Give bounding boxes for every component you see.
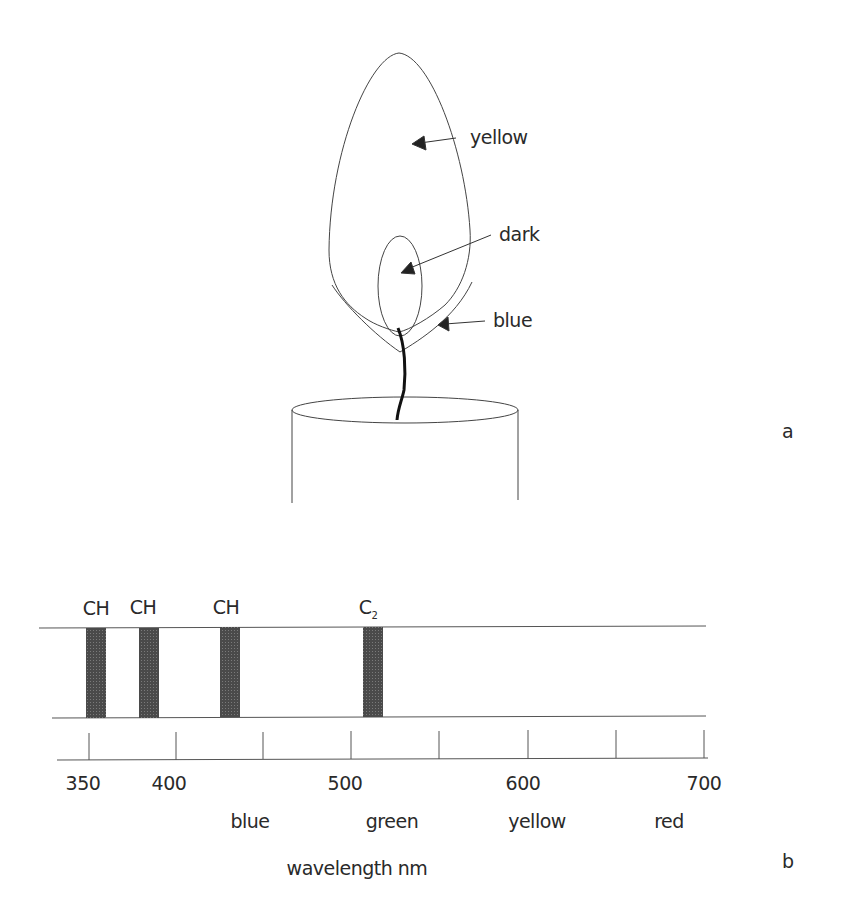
flame-label-yellow: yellow [470, 126, 528, 148]
label-arrows [401, 136, 491, 331]
band-label-ch-3: CH [213, 596, 240, 618]
wick [397, 328, 405, 420]
yellow-arrow-head [412, 136, 426, 150]
wavelength-axis [57, 730, 708, 760]
axis-title: wavelength nm [287, 857, 428, 879]
color-label-blue: blue [230, 810, 269, 832]
band-label-c2-species: C [359, 596, 372, 618]
axis-baseline [57, 758, 708, 760]
candle-illustration [292, 53, 518, 503]
blue-arrow-line [445, 321, 485, 324]
color-label-green: green [366, 810, 418, 832]
emission-bands [86, 627, 383, 718]
band-label-ch-1: CH [83, 597, 110, 619]
band-label-c2: C2 [359, 596, 378, 621]
color-label-yellow: yellow [508, 810, 566, 832]
color-label-red: red [654, 810, 684, 832]
flame-label-blue: blue [493, 309, 532, 331]
tick-label-500: 500 [328, 772, 363, 794]
band-c2 [363, 627, 383, 717]
tick-label-600: 600 [506, 772, 541, 794]
band-ch-3 [220, 627, 240, 717]
dark-arrow-line [410, 235, 491, 268]
band-label-ch-2: CH [130, 596, 157, 618]
panel-label-a: a [782, 420, 793, 442]
tick-label-700: 700 [687, 772, 722, 794]
yellow-arrow-line [420, 138, 456, 143]
band-label-c2-subscript: 2 [371, 610, 377, 621]
blue-arrow-head [438, 317, 449, 331]
tick-label-350: 350 [66, 772, 101, 794]
outer-flame-outline [329, 53, 470, 332]
band-ch-1 [86, 628, 106, 718]
dark-arrow-head [401, 262, 415, 274]
band-ch-2 [139, 628, 159, 718]
flame-label-dark: dark [499, 223, 540, 245]
tick-label-400: 400 [152, 772, 187, 794]
candle-top [292, 397, 518, 423]
panel-label-b: b [782, 850, 794, 872]
dark-zone-outline [378, 236, 422, 336]
